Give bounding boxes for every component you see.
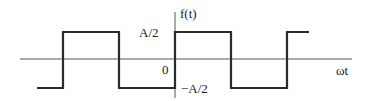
x-axis-label: ωt <box>336 63 349 78</box>
origin-label: 0 <box>162 62 169 77</box>
function-label: f(t) <box>180 6 197 21</box>
low-level-label: −A/2 <box>181 81 208 96</box>
square-waveform <box>37 32 309 88</box>
square-wave-diagram: f(t) A/2 0 −A/2 ωt <box>0 0 367 101</box>
high-level-label: A/2 <box>139 25 159 40</box>
